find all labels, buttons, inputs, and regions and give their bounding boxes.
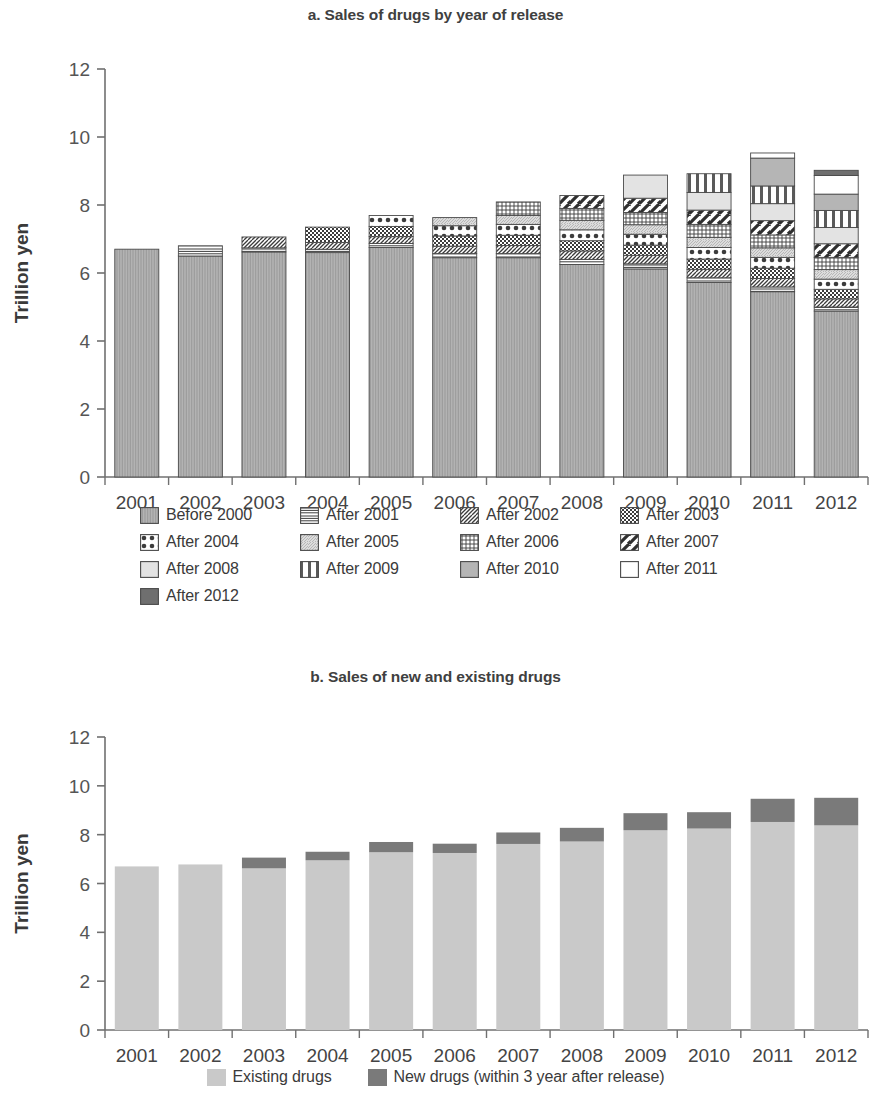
bar-segment [623,234,667,245]
legend-item-after-2012[interactable]: After 2012 [140,587,300,605]
legend-item-after-2011[interactable]: After 2011 [620,560,780,578]
bar-stack-b [115,866,159,1030]
bar-segment [560,259,604,264]
bar-segment [560,241,604,251]
legend-item-after-2002[interactable]: After 2002 [460,506,620,524]
legend-item-after-2003[interactable]: After 2003 [620,506,780,524]
legend-label: Before 2000 [166,506,252,524]
legend-item-after-2001[interactable]: After 2001 [300,506,460,524]
bar-stack-a [751,153,795,477]
legend-swatch-grid-icon [460,534,479,551]
bar-segment [433,853,477,1030]
bar-stack-a [306,227,350,477]
bar-segment [242,868,286,1030]
bar-segment [623,830,667,1030]
legend-item-after-2004[interactable]: After 2004 [140,533,300,551]
x-tick-label-b: 2010 [688,1045,730,1066]
bar-stack-b [433,844,477,1030]
bar-segment [687,237,731,247]
bar-stack-b [178,864,222,1030]
bar-segment [751,799,795,822]
legend-swatch-checker-icon [620,507,639,524]
legend-item-after-2009[interactable]: After 2009 [300,560,460,578]
bar-segment [751,186,795,204]
bar-segment [369,852,413,1030]
bar-stack-a [687,174,731,477]
bar-segment [623,269,667,477]
legend-swatch-vertical-bold-icon [300,561,319,578]
legend-swatch-dark-gray-solid-icon [368,1069,387,1086]
bar-segment [560,195,604,208]
bar-segment [306,253,350,477]
bar-stack-a [242,237,286,477]
bar-segment [560,220,604,230]
chart-b-block: b. Sales of new and existing drugs 02468… [0,668,871,1076]
bar-segment [433,254,477,258]
legend-item-after-2006[interactable]: After 2006 [460,533,620,551]
bar-segment [178,256,222,477]
bar-stack-a [623,175,667,477]
legend-item-after-2010[interactable]: After 2010 [460,560,620,578]
legend-item-after-2005[interactable]: After 2005 [300,533,460,551]
bar-segment [751,158,795,186]
y-tick-label-b: 12 [69,727,90,748]
bar-segment [687,829,731,1030]
bar-segment [687,259,731,269]
bar-segment [751,248,795,258]
bar-segment [496,258,540,477]
bar-stack-a [433,218,477,477]
legend-label: After 2010 [486,560,559,578]
bar-segment [751,235,795,248]
bar-segment [814,227,858,243]
legend-swatch-horizontal-lines-icon [300,507,319,524]
bar-segment [814,825,858,1030]
bar-segment [623,255,667,264]
bar-segment [369,226,413,236]
legend-swatch-vertical-fine-icon [140,507,159,524]
legend-item-existing-drugs[interactable]: Existing drugs [207,1068,332,1086]
bar-segment [369,216,413,227]
legend-label: After 2012 [166,587,239,605]
bar-segment [814,244,858,258]
bar-segment [814,307,858,311]
legend-swatch-light-gray-icon [140,561,159,578]
bar-segment [369,842,413,852]
chart-a-plot: 024681012Trillion yen2001200220032004200… [0,24,871,524]
bar-stack-a [560,195,604,477]
bar-segment [178,864,222,1030]
bar-segment [433,844,477,853]
legend-label: After 2004 [166,533,239,551]
legend-item-before-2000[interactable]: Before 2000 [140,506,300,524]
bar-segment [242,252,286,477]
legend-label: After 2008 [166,560,239,578]
bar-segment [814,170,858,175]
legend-label: Existing drugs [233,1068,332,1086]
chart-a-svg: 024681012Trillion yen2001200220032004200… [0,24,871,524]
bar-segment [242,248,286,252]
y-axis-label-a: Trillion yen [11,223,32,323]
bar-segment [623,225,667,235]
bar-segment [751,221,795,235]
legend-row: After 2004After 2005After 2006After 2007 [0,533,871,551]
bar-segment [751,278,795,287]
legend-swatch-light-hatch-icon [300,534,319,551]
bar-segment [496,245,540,253]
legend-swatch-dots-icon [140,534,159,551]
chart-b-title: b. Sales of new and existing drugs [0,668,871,686]
bar-segment [369,243,413,247]
legend-item-after-2008[interactable]: After 2008 [140,560,300,578]
x-tick-label-b: 2005 [370,1045,412,1066]
legend-item-new-drugs[interactable]: New drugs (within 3 year after release) [368,1068,665,1086]
chart-b-legend: Existing drugsNew drugs (within 3 year a… [0,1068,871,1086]
bar-segment [814,257,858,269]
bar-segment [433,258,477,477]
bar-segment [306,852,350,861]
bar-segment [115,249,159,477]
bar-segment [751,204,795,221]
y-tick-label-b: 8 [79,825,90,846]
bar-segment [623,198,667,212]
bar-segment [751,292,795,477]
legend-item-after-2007[interactable]: After 2007 [620,533,780,551]
legend-row: Before 2000After 2001After 2002After 200… [0,506,871,524]
bar-segment [687,278,731,283]
